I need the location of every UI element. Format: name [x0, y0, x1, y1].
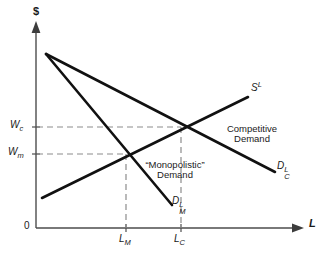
- monopolistic-demand-annotation-line2: Demand: [133, 170, 217, 180]
- monopolistic-demand-curve-label-sub: M: [179, 208, 185, 216]
- x-axis-label: L: [309, 218, 316, 230]
- y-tick-label-wm-sub: m: [17, 151, 23, 160]
- supply-curve-label: SL: [251, 81, 262, 94]
- y-tick-label-wm: Wm: [8, 147, 24, 160]
- y-axis: [32, 21, 41, 228]
- competitive-demand-curve-label-sub: C: [284, 173, 289, 181]
- origin-label: 0: [24, 221, 30, 232]
- labor-supply-curve: [42, 97, 248, 198]
- x-tick-label-lm-sub: M: [125, 238, 131, 247]
- monopolistic-demand-curve-label: D L M: [172, 196, 187, 207]
- competitive-demand-annotation: Competitive Demand: [215, 124, 289, 144]
- competitive-demand-curve-label-base: D: [277, 160, 284, 171]
- x-tick-label-lc-sub: C: [180, 238, 185, 247]
- economics-diagram: $ L 0 Wc Wm LM LC SL D L C D L M Competi…: [0, 0, 325, 253]
- competitive-demand-annotation-line2: Demand: [215, 134, 289, 144]
- supply-curve-label-base: S: [251, 82, 258, 93]
- monopolistic-demand-annotation: “Monopolistic” Demand: [133, 160, 217, 180]
- supply-curve-label-sup: L: [258, 80, 262, 89]
- monopolistic-demand-curve-label-base: D: [172, 195, 179, 206]
- monopolistic-equilibrium-guides: [37, 154, 126, 228]
- y-tick-label-wc-sub: c: [19, 124, 23, 133]
- y-tick-label-wc: Wc: [10, 120, 23, 133]
- y-axis-label: $: [33, 6, 39, 18]
- competitive-demand-curve-label: D L C: [277, 161, 290, 172]
- monopolistic-demand-curve: [46, 54, 172, 205]
- x-tick-label-lm: LM: [119, 234, 131, 247]
- x-axis: [36, 224, 304, 233]
- x-tick-label-lc: LC: [174, 234, 185, 247]
